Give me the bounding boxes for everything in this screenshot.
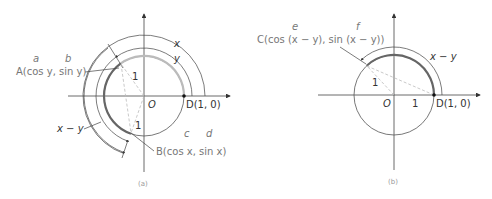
label-arc-x-minus-y-b: x − y <box>429 51 458 62</box>
caption-a: (a) <box>138 180 148 188</box>
figure-b: e f C(cos (x − y), sin (x − y)) x − y 1 … <box>257 14 480 186</box>
label-point-A: A(cos y, sin y) <box>16 66 86 77</box>
point-D-dot <box>182 94 186 98</box>
label-point-C: C(cos (x − y), sin (x − y)) <box>257 34 385 45</box>
chord-AB <box>121 64 131 133</box>
arc-xy-highlight <box>104 64 131 134</box>
unit-circle-figures: a b A(cos y, sin y) 1 O D(1, 0) 1 x y x … <box>0 0 492 199</box>
label-origin-a: O <box>148 99 156 110</box>
label-radius-B: 1 <box>135 120 141 131</box>
label-point-D-b: D(1, 0) <box>436 98 471 109</box>
arc-y <box>116 48 192 96</box>
annot-f: f <box>356 21 361 32</box>
arc-xy-highlight-b <box>367 55 434 95</box>
label-radius-A: 1 <box>132 71 138 82</box>
figure-a: a b A(cos y, sin y) 1 O D(1, 0) 1 x y x … <box>16 14 230 188</box>
label-point-B: B(cos x, sin x) <box>156 146 226 157</box>
leader-C <box>340 47 366 64</box>
caption-b: (b) <box>388 178 398 186</box>
leader-xy <box>84 122 101 129</box>
point-D-dot-b <box>432 93 436 97</box>
label-arc-x-minus-y-a: x − y <box>56 123 85 134</box>
annot-a: a <box>33 53 39 64</box>
label-radius-C: 1 <box>372 77 378 88</box>
label-arc-y: y <box>173 53 181 64</box>
label-radius-D: 1 <box>412 98 418 109</box>
label-point-D-a: D(1, 0) <box>186 99 221 110</box>
label-origin-b: O <box>383 98 391 109</box>
tick-B <box>122 140 128 158</box>
annot-d: d <box>206 128 213 139</box>
annot-e: e <box>292 21 298 32</box>
annot-c: c <box>184 128 190 139</box>
annot-b: b <box>65 53 71 64</box>
label-arc-x: x <box>173 38 180 49</box>
